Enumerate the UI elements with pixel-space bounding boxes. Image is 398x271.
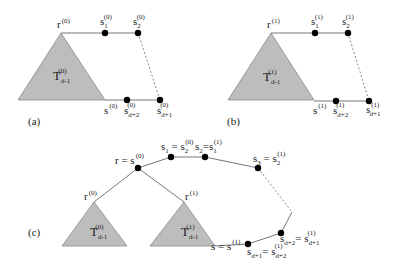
label-root: r(1): [267, 17, 281, 30]
label-s1-eq: s1 = s2(0): [161, 138, 194, 155]
label-sd1: sd+1(0): [157, 101, 173, 119]
panel-b: r(1) s1(1) s2(1) Td-1(1) s(1) sd+2(1) s(…: [227, 13, 381, 128]
label-root: r = s(0): [115, 152, 144, 166]
node-s1: [312, 30, 318, 36]
node-s1: [102, 30, 108, 36]
node-root: [135, 165, 141, 171]
label-sd2-eq: sd+2= sd+1(1): [280, 229, 320, 247]
label-sd2: sd+2(1): [333, 101, 349, 119]
dashed-path-edge: [138, 33, 160, 100]
diagram-canvas: r(0) s1(0) s2(0) Td-1(0) s(0) sd+2(0) sd…: [0, 0, 398, 271]
label-s-eq: s = s(1): [211, 238, 241, 252]
label-s2: s2(0): [133, 13, 146, 30]
label-s1: s1(1): [311, 13, 324, 30]
panel-label: (c): [28, 226, 41, 239]
edge-to-sd2: [281, 212, 292, 233]
label-r1: r(1): [185, 189, 199, 202]
panel-label: (a): [28, 115, 41, 128]
label-sd1: s(1)d+1: [366, 101, 381, 118]
label-s2: s2(1): [342, 13, 355, 30]
edge-root-r0: [94, 168, 138, 202]
label-s: s(1): [313, 102, 327, 116]
panel-label: (b): [227, 115, 240, 128]
label-s: s(0): [104, 102, 118, 116]
edge-s2-s3: [205, 157, 258, 168]
label-s1: s1(0): [100, 13, 113, 30]
label-s2-eq: s2=s1(1): [195, 138, 223, 155]
label-r0: r(0): [84, 189, 98, 202]
dashed-path-edge: [348, 33, 369, 101]
label-root: r(0): [57, 17, 71, 30]
node-s2: [345, 30, 351, 36]
panel-c: r = s(0) r(0) r(1) Td-1(0) Td-1(1) s1 = …: [28, 138, 320, 260]
node-s2: [135, 30, 141, 36]
dashed-path-edge: [258, 168, 292, 212]
label-s3-eq: s3 = s2(1): [253, 150, 286, 167]
panel-a: r(0) s1(0) s2(0) Td-1(0) s(0) sd+2(0) sd…: [18, 13, 173, 128]
subtree-triangle: [228, 33, 314, 100]
edge-root-r1: [138, 168, 184, 202]
label-sd1-eq: sd+1= sd+2(1): [247, 242, 287, 260]
label-sd2: sd+2(0): [124, 101, 140, 119]
